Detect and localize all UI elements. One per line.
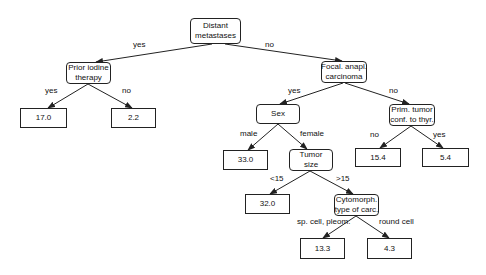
leaf-value: 4.3 [384, 244, 395, 254]
node-distant-metastases: Distant metastases [190, 18, 241, 44]
leaf-2-2: 2.2 [111, 108, 156, 128]
node-label-line2: carcinoma [326, 72, 363, 82]
edge-prim-154 [380, 126, 411, 148]
leaf-5-4: 5.4 [422, 148, 469, 167]
node-label-line1: Prim. tumor [391, 105, 432, 115]
edge-label-tumor-32: <15 [270, 174, 284, 183]
node-label-line2: conf. to thyr. [390, 115, 434, 125]
edge-label-sex-tumor: female [300, 129, 324, 138]
edge-label-prior-17: yes [45, 86, 57, 95]
leaf-value: 5.4 [440, 153, 451, 163]
node-label-line1: Tumor [300, 150, 323, 160]
node-label-line2: therapy [75, 73, 102, 83]
node-label-line1: Focal. anapl. [321, 62, 367, 72]
node-label-line2: type of carc. [335, 205, 379, 215]
edge-label-focal-sex: yes [288, 86, 300, 95]
edge-label-sex-33: male [240, 129, 257, 138]
leaf-value: 32.0 [260, 199, 276, 209]
leaf-value: 13.3 [315, 244, 331, 254]
node-prim-tumor-conf: Prim. tumor conf. to thyr. [389, 104, 435, 126]
leaf-4-3: 4.3 [367, 238, 412, 259]
leaf-value: 33.0 [238, 155, 254, 165]
edge-focal-prim [345, 83, 409, 104]
leaf-33-0: 33.0 [223, 150, 268, 170]
edge-label-cyto-133: sp. cell, pleom. [297, 217, 350, 226]
leaf-15-4: 15.4 [355, 148, 401, 167]
leaf-32-0: 32.0 [245, 194, 290, 214]
node-focal-anapl-carcinoma: Focal. anapl. carcinoma [321, 61, 367, 83]
edge-label-prim-154: no [370, 130, 379, 139]
node-label-line2: size [304, 160, 318, 170]
edge-root-focal [225, 44, 342, 61]
edge-label-prim-54: yes [433, 130, 445, 139]
edge-label-prior-22: no [122, 86, 131, 95]
node-label-line1: Cytomorph. [336, 195, 377, 205]
node-label-line1: Sex [271, 109, 285, 119]
edge-label-root-focal: no [265, 40, 274, 49]
leaf-13-3: 13.3 [300, 238, 345, 259]
leaf-value: 2.2 [128, 113, 139, 123]
node-label-line2: metastases [195, 31, 236, 41]
edge-label-cyto-43: round cell [379, 217, 414, 226]
edge-label-root-prior: yes [133, 40, 145, 49]
node-label-line1: Distant [203, 21, 228, 31]
leaf-17-0: 17.0 [20, 108, 67, 128]
node-label-line1: Prior iodine [68, 63, 108, 73]
leaf-value: 17.0 [36, 113, 52, 123]
edge-root-prior [96, 44, 212, 62]
node-cytomorph-type: Cytomorph. type of carc. [334, 194, 379, 216]
node-prior-iodine-therapy: Prior iodine therapy [66, 62, 111, 84]
node-sex: Sex [256, 104, 300, 124]
node-tumor-size: Tumor size [289, 149, 333, 171]
leaf-value: 15.4 [370, 153, 386, 163]
edge-label-tumor-cyto: >15 [336, 174, 350, 183]
edge-label-focal-prim: no [389, 86, 398, 95]
